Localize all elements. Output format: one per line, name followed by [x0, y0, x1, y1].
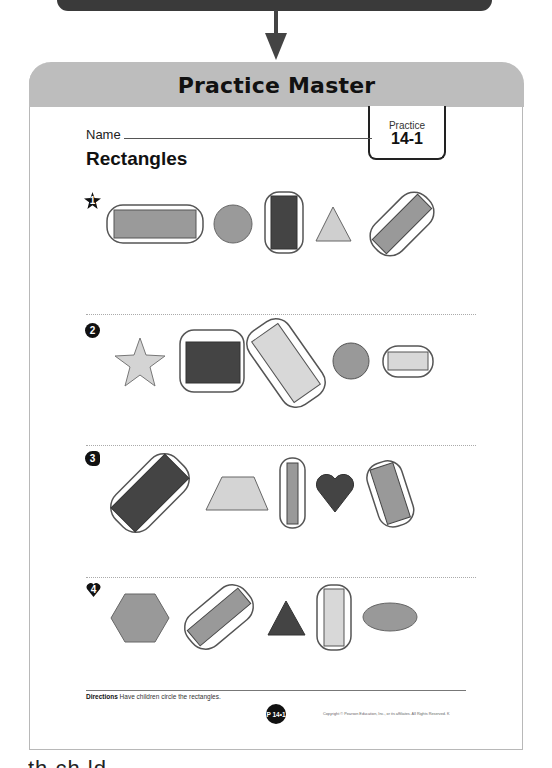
- circle-shape: [214, 205, 252, 243]
- directions-rule: [86, 690, 466, 691]
- rectangle-shape: [372, 194, 431, 253]
- triangle-shape: [268, 601, 305, 635]
- page-number-badge: P 14•1: [266, 704, 286, 724]
- triangle-shape: [316, 207, 351, 241]
- rectangle-shape: [252, 324, 321, 403]
- star-shape: [115, 338, 165, 386]
- row-4-shapes: [111, 578, 417, 656]
- ellipse-shape: [363, 603, 417, 631]
- directions-text: Have children circle the rectangles.: [120, 693, 221, 700]
- directions-label: Directions: [86, 693, 118, 700]
- rectangle-shape: [370, 463, 410, 525]
- row-2-shapes: [115, 312, 433, 413]
- rectangle-shape: [187, 588, 250, 646]
- copyright-notice: Copyright © Pearson Education, Inc., or …: [323, 712, 450, 716]
- row-1-shapes: [107, 185, 441, 263]
- rectangle-shape: [271, 196, 297, 249]
- rectangle-shape: [287, 463, 298, 524]
- rectangle-shape: [111, 454, 189, 532]
- rectangle-shape: [114, 210, 196, 238]
- directions-line: Directions Have children circle the rect…: [86, 693, 221, 700]
- heart-shape: [316, 474, 353, 512]
- shapes-canvas: [0, 0, 552, 768]
- row-3-shapes: [103, 446, 417, 539]
- circle-shape: [333, 343, 369, 379]
- rectangle-shape: [186, 342, 240, 383]
- trapezoid-shape: [206, 477, 268, 510]
- cropped-caption-text: th ch ld: [28, 754, 107, 768]
- rectangle-shape: [324, 589, 344, 646]
- rectangle-shape: [388, 352, 428, 370]
- hexagon-shape: [111, 594, 169, 642]
